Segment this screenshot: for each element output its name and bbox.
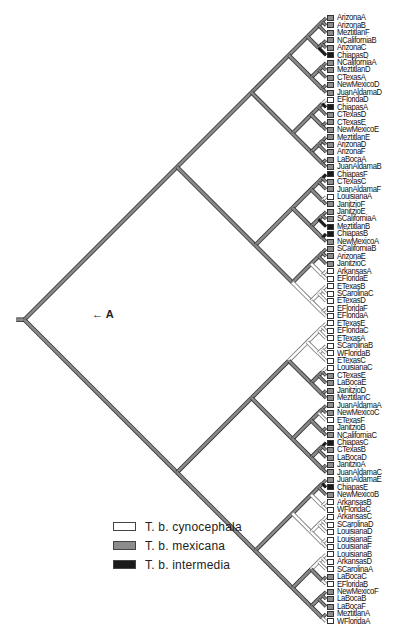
- leaf-marker-mexicana: [327, 402, 334, 408]
- leaf-marker-cynocephala: [327, 298, 334, 304]
- leaf-marker-cynocephala: [327, 328, 334, 334]
- leaf-marker-mexicana: [327, 611, 334, 617]
- leaf-marker-mexicana: [327, 112, 334, 118]
- leaf-marker-mexicana: [327, 455, 334, 461]
- leaf-marker-mexicana: [327, 164, 334, 170]
- leaf-marker-cynocephala: [327, 320, 334, 326]
- leaf-marker-cynocephala: [327, 283, 334, 289]
- leaf-marker-mexicana: [327, 30, 334, 36]
- leaf-marker-cynocephala: [327, 350, 334, 356]
- leaf-marker-mexicana: [327, 410, 334, 416]
- leaf-marker-mexicana: [327, 469, 334, 475]
- leaf-marker-intermedia: [327, 52, 334, 58]
- swatch-mexicana: [113, 541, 136, 550]
- leaf-marker-cynocephala: [327, 306, 334, 312]
- leaf-marker-mexicana: [327, 37, 334, 43]
- legend-label: T. b. cynocephala: [145, 520, 242, 534]
- leaf-marker-mexicana: [327, 388, 334, 394]
- leaf-marker-cynocephala: [327, 559, 334, 565]
- leaf-label: WFloridaA: [337, 618, 370, 625]
- leaf-marker-cynocephala: [327, 499, 334, 505]
- legend-item-mexicana: T. b. mexicana: [113, 536, 242, 555]
- leaf-marker-mexicana: [327, 209, 334, 215]
- leaf-marker-cynocephala: [327, 551, 334, 557]
- leaf-marker-mexicana: [327, 432, 334, 438]
- swatch-intermedia: [113, 560, 136, 569]
- leaf-marker-cynocephala: [327, 514, 334, 520]
- leaf-marker-mexicana: [327, 574, 334, 580]
- legend-item-intermedia: T. b. intermedia: [113, 555, 242, 574]
- leaf-marker-intermedia: [327, 484, 334, 490]
- leaf-marker-mexicana: [327, 119, 334, 125]
- leaf-marker-mexicana: [327, 380, 334, 386]
- leaf-marker-cynocephala: [327, 365, 334, 371]
- swatch-cynocephala: [113, 522, 136, 531]
- leaf-marker-mexicana: [327, 60, 334, 66]
- leaf-marker-mexicana: [327, 149, 334, 155]
- leaf-marker-cynocephala: [327, 268, 334, 274]
- leaf-marker-cynocephala: [327, 537, 334, 543]
- leaf-marker-mexicana: [327, 261, 334, 267]
- leaf-marker-cynocephala: [327, 276, 334, 282]
- annotation-label: A: [106, 308, 114, 320]
- leaf-marker-cynocephala: [327, 291, 334, 297]
- leaf-marker-intermedia: [327, 171, 334, 177]
- leaf-marker-intermedia: [327, 231, 334, 237]
- leaf-marker-mexicana: [327, 157, 334, 163]
- leaf-marker-mexicana: [327, 179, 334, 185]
- legend: T. b. cynocephala T. b. mexicana T. b. i…: [113, 517, 242, 574]
- node-annotation-a: ← A: [92, 308, 114, 320]
- leaf-marker-mexicana: [327, 492, 334, 498]
- leaf-marker-mexicana: [327, 246, 334, 252]
- leaf-marker-intermedia: [327, 104, 334, 110]
- leaf-marker-mexicana: [327, 239, 334, 245]
- leaf-marker-mexicana: [327, 373, 334, 379]
- leaf-marker-cynocephala: [327, 618, 334, 624]
- leaf-marker-mexicana: [327, 75, 334, 81]
- legend-label: T. b. mexicana: [145, 539, 225, 553]
- leaf-marker-mexicana: [327, 216, 334, 222]
- leaf-marker-mexicana: [327, 395, 334, 401]
- leaf-marker-mexicana: [327, 201, 334, 207]
- leaf-marker-cynocephala: [327, 522, 334, 528]
- leaf-marker-mexicana: [327, 186, 334, 192]
- leaf-marker-cynocephala: [327, 581, 334, 587]
- leaf-marker-cynocephala: [327, 194, 334, 200]
- legend-label: T. b. intermedia: [145, 558, 230, 572]
- leaf-marker-intermedia: [327, 224, 334, 230]
- leaf-marker-cynocephala: [327, 343, 334, 349]
- leaf-marker-mexicana: [327, 90, 334, 96]
- leaf-marker-mexicana: [327, 462, 334, 468]
- leaf-marker-mexicana: [327, 477, 334, 483]
- leaf-marker-mexicana: [327, 589, 334, 595]
- leaf-marker-mexicana: [327, 604, 334, 610]
- leaf-marker-cynocephala: [327, 97, 334, 103]
- leaf-marker-cynocephala: [327, 313, 334, 319]
- leaf-marker-mexicana: [327, 82, 334, 88]
- leaf-marker-mexicana: [327, 134, 334, 140]
- leaf-marker-cynocephala: [327, 358, 334, 364]
- leaf-marker-cynocephala: [327, 417, 334, 423]
- leaf-marker-mexicana: [327, 45, 334, 51]
- leaf-marker-mexicana: [327, 596, 334, 602]
- leaf-marker-mexicana: [327, 142, 334, 148]
- arrow-left-icon: ←: [92, 308, 103, 320]
- leaf-marker-cynocephala: [327, 566, 334, 572]
- legend-item-cynocephala: T. b. cynocephala: [113, 517, 242, 536]
- leaf-marker-mexicana: [327, 67, 334, 73]
- leaf-marker-cynocephala: [327, 544, 334, 550]
- leaf-marker-mexicana: [327, 447, 334, 453]
- leaf-marker-mexicana: [327, 127, 334, 133]
- leaf-marker-cynocephala: [327, 507, 334, 513]
- leaf-marker-mexicana: [327, 22, 334, 28]
- leaf-marker-cynocephala: [327, 529, 334, 535]
- leaf-marker-mexicana: [327, 15, 334, 21]
- leaf-marker-cynocephala: [327, 335, 334, 341]
- leaf-marker-mexicana: [327, 253, 334, 259]
- leaf-marker-intermedia: [327, 440, 334, 446]
- leaf-marker-mexicana: [327, 425, 334, 431]
